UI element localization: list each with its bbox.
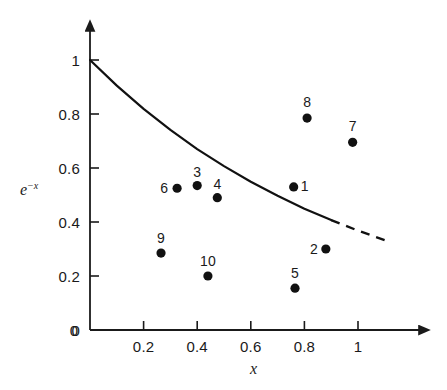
data-point-marker — [302, 113, 311, 122]
y-axis-title-exponent: −x — [27, 180, 38, 191]
x-tick-label: 0.2 — [133, 338, 154, 355]
y-tick-label: 0.6 — [59, 160, 80, 177]
data-point-marker — [290, 284, 299, 293]
data-point-marker — [348, 138, 357, 147]
x-tick-label: 0.6 — [240, 338, 261, 355]
data-point-label: 4 — [213, 176, 221, 192]
data-point-marker — [193, 181, 202, 190]
data-point-label: 5 — [291, 265, 299, 281]
data-point-marker — [213, 193, 222, 202]
y-tick-label: 0.4 — [59, 214, 80, 231]
exponential-curve-dashed — [331, 220, 390, 242]
data-point-label: 7 — [349, 118, 357, 134]
data-point-marker — [156, 248, 165, 257]
data-point-label: 10 — [200, 253, 216, 269]
data-point-label: 3 — [193, 164, 201, 180]
y-tick-label: 0.2 — [59, 268, 80, 285]
data-point-label: 1 — [301, 178, 309, 194]
plot-canvas — [0, 0, 447, 390]
exponential-curve-solid — [90, 60, 331, 220]
x-axis-ticks — [144, 321, 358, 330]
x-tick-label: 1 — [354, 338, 363, 355]
y-axis-ticks — [90, 60, 99, 276]
scatter-plot-figure: 00.20.40.60.81 00.20.40.60.81 1234567891… — [0, 0, 447, 390]
data-point-label: 8 — [303, 94, 311, 110]
axes — [90, 30, 420, 330]
data-point-marker — [203, 271, 212, 280]
x-tick-label: 0.8 — [294, 338, 315, 355]
data-point-label: 9 — [157, 230, 165, 246]
data-point-marker — [289, 182, 298, 191]
x-tick-label: 0 — [70, 322, 79, 339]
data-point-marker — [173, 184, 182, 193]
data-point-label: 6 — [160, 180, 168, 196]
y-tick-label: 0.8 — [59, 106, 80, 123]
x-axis-title: x — [250, 360, 257, 378]
data-point-label: 2 — [310, 241, 318, 257]
y-axis-title: e−x — [20, 180, 38, 199]
y-tick-label: 1 — [71, 52, 80, 69]
x-tick-label: 0.4 — [186, 338, 207, 355]
data-point-marker — [321, 244, 330, 253]
